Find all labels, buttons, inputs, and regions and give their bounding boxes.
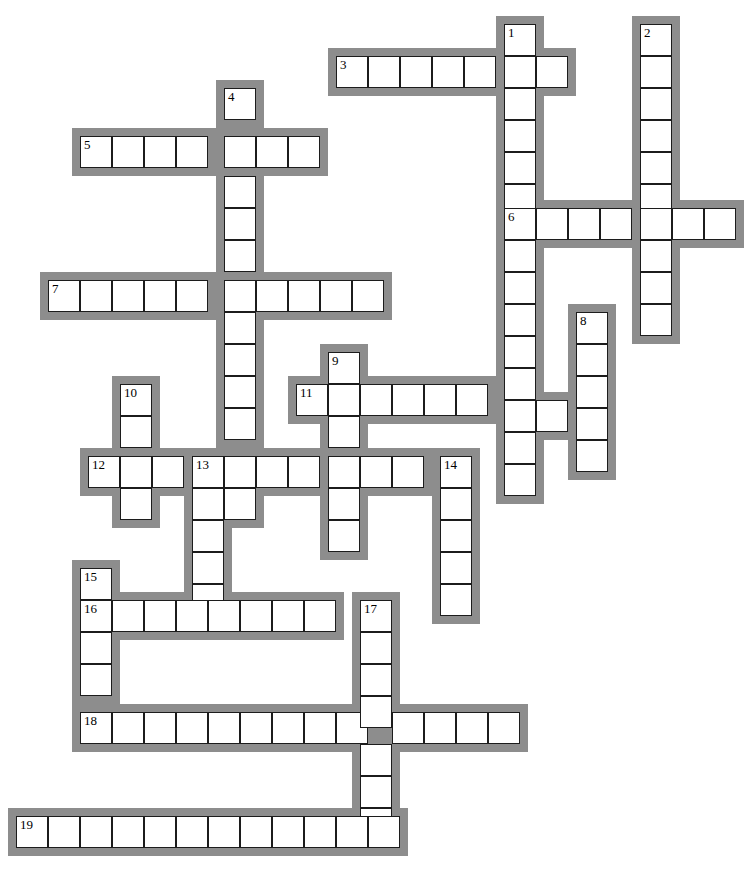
crossword-cell[interactable] (120, 488, 152, 520)
crossword-cell[interactable] (576, 344, 608, 376)
crossword-cell[interactable] (640, 208, 672, 240)
crossword-cell[interactable] (352, 280, 384, 312)
crossword-cell-numbered[interactable]: 4 (224, 88, 256, 120)
crossword-cell[interactable] (504, 464, 536, 496)
crossword-cell[interactable] (256, 456, 288, 488)
crossword-cell[interactable] (328, 488, 360, 520)
crossword-cell[interactable] (120, 456, 152, 488)
crossword-cell-numbered[interactable]: 13 (192, 456, 224, 488)
crossword-cell[interactable] (440, 520, 472, 552)
crossword-cell[interactable] (536, 208, 568, 240)
crossword-cell[interactable] (272, 712, 304, 744)
crossword-cell[interactable] (504, 432, 536, 464)
crossword-cell[interactable] (144, 136, 176, 168)
crossword-cell-numbered[interactable]: 16 (80, 600, 112, 632)
crossword-cell-numbered[interactable]: 11 (296, 384, 328, 416)
crossword-cell[interactable] (224, 280, 256, 312)
crossword-cell[interactable] (576, 408, 608, 440)
crossword-cell[interactable] (328, 520, 360, 552)
crossword-cell[interactable] (224, 208, 256, 240)
crossword-cell[interactable] (224, 312, 256, 344)
crossword-cell[interactable] (80, 816, 112, 848)
crossword-cell[interactable] (320, 280, 352, 312)
crossword-cell[interactable] (112, 136, 144, 168)
crossword-cell-numbered[interactable]: 10 (120, 384, 152, 416)
crossword-cell-numbered[interactable]: 17 (360, 600, 392, 632)
crossword-cell[interactable] (288, 136, 320, 168)
crossword-cell[interactable] (80, 280, 112, 312)
crossword-cell[interactable] (256, 136, 288, 168)
crossword-cell-numbered[interactable]: 5 (80, 136, 112, 168)
crossword-cell[interactable] (360, 456, 392, 488)
crossword-cell[interactable] (640, 88, 672, 120)
crossword-cell[interactable] (360, 776, 392, 808)
crossword-cell[interactable] (392, 456, 424, 488)
crossword-cell[interactable] (304, 600, 336, 632)
crossword-cell[interactable] (176, 600, 208, 632)
crossword-cell[interactable] (224, 176, 256, 208)
crossword-cell[interactable] (600, 208, 632, 240)
crossword-cell[interactable] (368, 816, 400, 848)
crossword-cell-numbered[interactable]: 7 (48, 280, 80, 312)
crossword-cell[interactable] (440, 552, 472, 584)
crossword-cell[interactable] (208, 816, 240, 848)
crossword-cell[interactable] (144, 600, 176, 632)
crossword-cell-numbered[interactable]: 8 (576, 312, 608, 344)
crossword-cell[interactable] (192, 552, 224, 584)
crossword-cell-numbered[interactable]: 6 (504, 208, 536, 240)
crossword-cell[interactable] (504, 240, 536, 272)
crossword-cell[interactable] (432, 56, 464, 88)
crossword-cell[interactable] (360, 696, 392, 728)
crossword-cell[interactable] (504, 272, 536, 304)
crossword-cell[interactable] (360, 632, 392, 664)
crossword-cell[interactable] (224, 344, 256, 376)
crossword-cell[interactable] (112, 816, 144, 848)
crossword-cell[interactable] (368, 56, 400, 88)
crossword-cell[interactable] (112, 280, 144, 312)
crossword-cell[interactable] (240, 600, 272, 632)
crossword-cell[interactable] (288, 456, 320, 488)
crossword-cell[interactable] (704, 208, 736, 240)
crossword-cell[interactable] (640, 56, 672, 88)
crossword-cell[interactable] (48, 816, 80, 848)
crossword-cell-numbered[interactable]: 1 (504, 24, 536, 56)
crossword-cell[interactable] (576, 376, 608, 408)
crossword-cell[interactable] (504, 400, 536, 432)
crossword-cell[interactable] (640, 120, 672, 152)
crossword-cell-numbered[interactable]: 9 (328, 352, 360, 384)
crossword-cell[interactable] (176, 816, 208, 848)
crossword-cell[interactable] (568, 208, 600, 240)
crossword-cell[interactable] (304, 712, 336, 744)
crossword-cell[interactable] (456, 712, 488, 744)
crossword-cell-numbered[interactable]: 3 (336, 56, 368, 88)
crossword-cell[interactable] (440, 488, 472, 520)
crossword-cell[interactable] (536, 400, 568, 432)
crossword-cell[interactable] (640, 152, 672, 184)
crossword-cell[interactable] (208, 712, 240, 744)
crossword-cell[interactable] (400, 56, 432, 88)
crossword-cell[interactable] (176, 280, 208, 312)
crossword-cell[interactable] (152, 456, 184, 488)
crossword-cell[interactable] (424, 384, 456, 416)
crossword-cell[interactable] (224, 488, 256, 520)
crossword-cell[interactable] (640, 304, 672, 336)
crossword-cell[interactable] (224, 456, 256, 488)
crossword-cell[interactable] (640, 240, 672, 272)
crossword-cell[interactable] (504, 120, 536, 152)
crossword-cell-numbered[interactable]: 18 (80, 712, 112, 744)
crossword-cell[interactable] (176, 136, 208, 168)
crossword-cell[interactable] (392, 384, 424, 416)
crossword-cell[interactable] (504, 304, 536, 336)
crossword-cell[interactable] (360, 744, 392, 776)
crossword-cell[interactable] (504, 88, 536, 120)
crossword-cell[interactable] (360, 384, 392, 416)
crossword-cell[interactable] (80, 664, 112, 696)
crossword-cell[interactable] (144, 816, 176, 848)
crossword-cell[interactable] (80, 632, 112, 664)
crossword-cell[interactable] (272, 816, 304, 848)
crossword-cell-numbered[interactable]: 14 (440, 456, 472, 488)
crossword-cell[interactable] (536, 56, 568, 88)
crossword-cell[interactable] (328, 456, 360, 488)
crossword-cell[interactable] (328, 384, 360, 416)
crossword-cell[interactable] (328, 416, 360, 448)
